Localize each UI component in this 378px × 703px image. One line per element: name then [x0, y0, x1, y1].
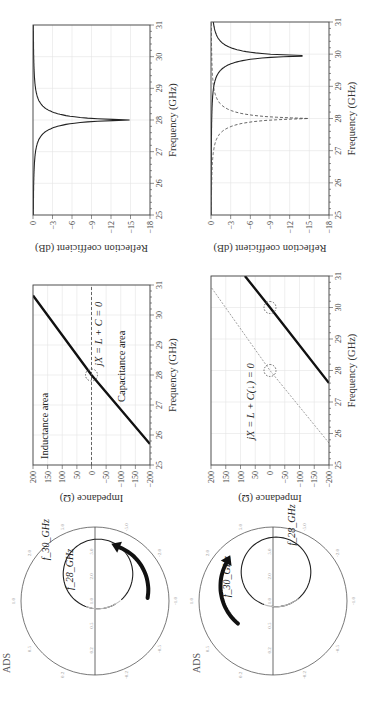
smith-real-label: 0.5	[89, 622, 94, 629]
smith-rim-label: -2.0	[335, 549, 340, 557]
x-tick-label: 30	[334, 50, 343, 58]
y-tick-label: 50	[73, 471, 82, 479]
y-tick-label: 0	[29, 221, 38, 225]
x-tick-label: 29	[155, 84, 164, 92]
smith-rim-label: 0.5	[27, 645, 32, 652]
smith-rim-label: -0.2	[124, 670, 129, 678]
y-tick-label: −6	[68, 221, 77, 230]
x-tick-label: 27	[155, 401, 164, 409]
smith-rim-label: 2.0	[27, 549, 32, 556]
x-axis-label: Frequency (GHz)	[167, 338, 179, 412]
y-tick-label: −9	[266, 221, 275, 230]
y-tick-label: −3	[227, 221, 236, 230]
smith-real-label: 0.2	[89, 647, 94, 654]
y-tick-label: 0	[88, 471, 97, 475]
y-tick-label: 150	[222, 471, 231, 483]
y-tick-label: −18	[146, 221, 155, 234]
smith-real-label: 5.0	[267, 548, 272, 555]
y-tick-label: −50	[102, 471, 111, 484]
smith-real-label: 0.2	[267, 647, 272, 654]
y-tick-label: 0	[266, 471, 275, 475]
x-tick-label: 31	[155, 21, 164, 29]
x-tick-label: 30	[155, 311, 164, 319]
y-tick-label: −9	[88, 221, 97, 230]
x-tick-label: 28	[334, 115, 343, 123]
x-tick-label: 26	[334, 430, 343, 438]
y-axis-label: Impedance (Ω)	[238, 492, 302, 504]
y-axis-label: Reflection coefficient (dB)	[35, 242, 148, 254]
y-tick-label: −200	[325, 471, 334, 488]
inductance-area-label: Inductance area	[39, 393, 50, 459]
capacitance-area-label: Capacitance area	[116, 330, 127, 402]
y-tick-label: −200	[146, 471, 155, 488]
impedance-locus	[241, 537, 311, 607]
y-tick-label: −3	[49, 221, 58, 230]
x-tick-label: 31	[334, 18, 343, 26]
smith-real-label: 2.0	[89, 573, 94, 580]
smith-rim-label: 0.2	[60, 671, 65, 678]
smith-rim-label: -5.0	[124, 523, 129, 531]
y-tick-label: −12	[107, 221, 116, 234]
smith-rim-label: 0.2	[238, 671, 243, 678]
ads-label: ADS	[1, 653, 12, 673]
y-tick-label: −50	[281, 471, 290, 484]
x-axis-label: Frequency (GHz)	[167, 83, 179, 157]
y-tick-label: −100	[117, 471, 126, 488]
smith-real-label: 0.5	[267, 622, 272, 629]
x-axis-label: Frequency (GHz)	[346, 81, 358, 155]
reflection-plot-row-1: 252627282930310−3−6−9−12−15−18Frequency …	[29, 21, 179, 254]
y-axis-label: Reflection coefficient (dB)	[213, 242, 326, 254]
x-tick-label: 25	[334, 211, 343, 219]
x-tick-label: 26	[155, 431, 164, 439]
series-line	[245, 276, 329, 383]
x-tick-label: 25	[334, 461, 343, 469]
impedance-plot-row-1: 25262728293031200150100500−50−100−150−20…	[29, 281, 179, 504]
smith-rim-label: -0.5	[335, 645, 340, 653]
x-tick-label: 27	[334, 398, 343, 406]
smith-real-label: 2.0	[267, 573, 272, 580]
y-tick-label: 100	[58, 471, 67, 483]
x-tick-label: 27	[334, 147, 343, 155]
y-tick-label: −6	[246, 221, 255, 230]
smith-rim-label: 1.0	[189, 597, 194, 604]
x-tick-label: 30	[155, 53, 164, 61]
x-tick-label: 29	[155, 341, 164, 349]
x-tick-label: 29	[334, 82, 343, 90]
x-tick-label: 31	[334, 272, 343, 280]
smith-real-label: 1.0	[89, 597, 94, 604]
y-tick-label: −15	[127, 221, 136, 234]
marker-f30-label: f_30_GHz	[40, 519, 51, 560]
x-tick-label: 30	[334, 304, 343, 312]
smith-chart-row-2: 0.2-0.20.5-0.51.0-1.02.0-2.05.0-5.00.20.…	[189, 504, 356, 679]
x-tick-label: 28	[155, 371, 164, 379]
smith-rim-label: 1.0	[11, 597, 16, 604]
y-tick-label: −150	[310, 471, 319, 488]
smith-rim-label: 5.0	[238, 524, 243, 531]
x-tick-label: 31	[155, 281, 164, 289]
marker-f28-label: f_28_GHz	[64, 549, 75, 590]
x-tick-label: 26	[334, 179, 343, 187]
y-axis-label: Impedance (Ω)	[59, 492, 123, 504]
y-tick-label: 150	[44, 471, 53, 483]
smith-real-label: 1.0	[267, 597, 272, 604]
x-tick-label: 27	[155, 148, 164, 156]
y-tick-label: −12	[286, 221, 295, 234]
y-tick-label: −100	[296, 471, 305, 488]
marker-f28-label: f_28_GHz	[286, 504, 297, 545]
resonance-equation: jX = L + C = 0	[93, 301, 104, 368]
y-tick-label: 0	[207, 221, 216, 225]
smith-rim-label: -1.0	[173, 597, 178, 605]
smith-rim-label: 5.0	[60, 524, 65, 531]
y-tick-label: 200	[207, 471, 216, 483]
smith-rim-label: 2.0	[205, 549, 210, 556]
y-tick-label: 100	[237, 471, 246, 483]
smith-rim-label: -5.0	[302, 523, 307, 531]
resonance-equation: jX = L + C(↓) = 0	[245, 363, 257, 442]
y-tick-label: 200	[29, 471, 38, 483]
x-tick-label: 25	[155, 461, 164, 469]
x-axis-label: Frequency (GHz)	[346, 333, 358, 407]
x-tick-label: 25	[155, 211, 164, 219]
smith-rim-label: -0.5	[157, 645, 162, 653]
ads-label: ADS	[191, 653, 202, 673]
y-tick-label: −18	[325, 221, 334, 234]
